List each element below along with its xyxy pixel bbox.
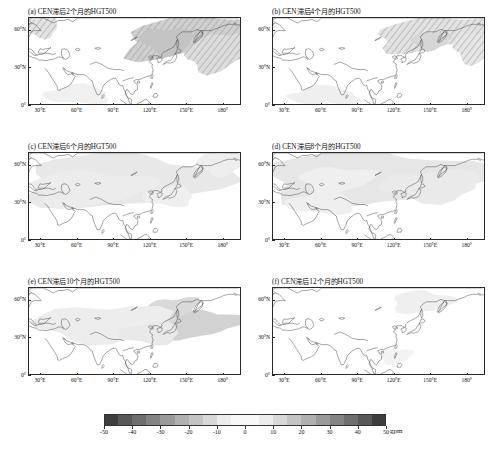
xtick-label: 90°E	[99, 242, 127, 248]
panel-title-b: (b) CEN滞后4个月的HGT500	[272, 8, 487, 17]
ytick-mark	[272, 202, 275, 203]
ytick-mark	[28, 337, 31, 338]
xtick-label: 30°E	[26, 107, 54, 113]
xtick-mark	[186, 373, 187, 376]
coastline	[273, 56, 308, 61]
coastline	[153, 363, 158, 367]
xtick-mark	[40, 238, 41, 241]
xtick-label: 120°E	[136, 107, 164, 113]
ytick-label: 30°N	[6, 334, 26, 340]
xtick-mark	[113, 238, 114, 241]
map-plot-c	[28, 152, 241, 240]
colorbar-segment	[160, 414, 175, 426]
panel-title-c: (c) CEN滞后6个月的HGT500	[28, 143, 243, 152]
coastline	[289, 338, 320, 361]
xtick-mark	[357, 103, 358, 106]
coastline	[401, 328, 407, 333]
ytick-mark	[28, 67, 31, 68]
coastline	[397, 93, 402, 97]
xtick-mark	[113, 103, 114, 106]
coastline	[137, 81, 140, 84]
xtick-label: 60°E	[307, 107, 335, 113]
ytick-label: 60°N	[250, 26, 270, 32]
colorbar-segment	[330, 414, 345, 426]
ytick-label: 30°N	[6, 64, 26, 70]
colorbar-segment	[245, 414, 260, 426]
ytick-mark	[272, 300, 275, 301]
panel-f: (f) CEN滞后12个月的HGT50060°N30°N0°30°E60°E90…	[250, 278, 487, 389]
colorbar-segment	[287, 414, 302, 426]
ytick-label: 0°	[250, 237, 270, 243]
significance-hatching	[29, 18, 57, 40]
ytick-mark	[28, 165, 31, 166]
xtick-mark	[321, 238, 322, 241]
colorbar-tick-label: -50	[92, 429, 116, 435]
coastline	[339, 318, 345, 320]
xtick-label: 180°	[209, 377, 237, 383]
xtick-mark	[284, 373, 285, 376]
colorbar-tick-label: 0	[233, 429, 257, 435]
xtick-label: 90°E	[343, 377, 371, 383]
coastline	[319, 318, 324, 321]
coastline	[75, 48, 80, 51]
coastline	[381, 81, 384, 84]
colorbar-tick-label: 20	[289, 429, 313, 435]
xtick-mark	[467, 238, 468, 241]
xtick-label: 180°	[453, 107, 481, 113]
ytick-label: 30°N	[250, 199, 270, 205]
coastline	[316, 73, 318, 74]
colorbar-segment	[146, 414, 161, 426]
colorbar-segment	[189, 414, 204, 426]
xtick-label: 30°E	[270, 377, 298, 383]
coastline	[346, 365, 349, 369]
xtick-mark	[77, 373, 78, 376]
colorbar-tick-label: 40	[346, 429, 370, 435]
xtick-label: 150°E	[416, 242, 444, 248]
xtick-mark	[40, 373, 41, 376]
ytick-label: 30°N	[250, 334, 270, 340]
ytick-mark	[28, 105, 31, 106]
coastline	[478, 293, 486, 298]
xtick-mark	[467, 373, 468, 376]
xtick-mark	[357, 373, 358, 376]
coastline	[137, 351, 140, 354]
ytick-mark	[272, 105, 275, 106]
coastline	[273, 49, 282, 56]
ytick-mark	[28, 240, 31, 241]
xtick-mark	[150, 238, 151, 241]
coastline	[90, 62, 124, 71]
ytick-label: 0°	[6, 237, 26, 243]
xtick-label: 150°E	[172, 377, 200, 383]
colorbar-segment	[358, 414, 373, 426]
coastline	[137, 370, 149, 375]
coastline	[123, 348, 134, 351]
coastline	[375, 37, 381, 41]
xtick-mark	[394, 373, 395, 376]
coastline	[45, 338, 76, 361]
xtick-label: 180°	[453, 242, 481, 248]
panel-title-d: (d) CEN滞后8个月的HGT500	[272, 143, 487, 152]
colorbar-segment	[273, 414, 288, 426]
coastline	[137, 100, 149, 105]
coastline	[137, 216, 140, 219]
panel-e: (e) CEN滞后10个月的HGT50060°N30°N0°30°E60°E90…	[6, 278, 243, 389]
xtick-label: 30°E	[26, 242, 54, 248]
colorbar	[104, 414, 386, 426]
xtick-mark	[284, 238, 285, 241]
coastline	[367, 213, 378, 216]
coastline	[273, 288, 285, 307]
xtick-label: 120°E	[136, 377, 164, 383]
xtick-mark	[321, 373, 322, 376]
xtick-mark	[430, 373, 431, 376]
xtick-label: 150°E	[172, 107, 200, 113]
colorbar-segment	[231, 414, 246, 426]
xtick-mark	[186, 103, 187, 106]
colorbar-tick-label: -10	[205, 429, 229, 435]
map-plot-d	[272, 152, 485, 240]
coastline	[153, 228, 158, 232]
coastline	[273, 184, 282, 191]
xtick-mark	[357, 238, 358, 241]
colorbar-tick-label: 10	[261, 429, 285, 435]
xtick-label: 150°E	[416, 377, 444, 383]
colorbar-segment	[301, 414, 316, 426]
